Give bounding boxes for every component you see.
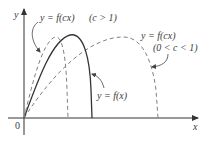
stretched-curve-equation: y = f(cx) <box>141 31 176 41</box>
origin-label: 0 <box>15 121 20 131</box>
original-pointer-arrow <box>92 74 104 88</box>
compressed-curve <box>24 37 68 118</box>
compressed-pointer-arrow <box>32 22 40 52</box>
compressed-curve-equation: y = f(cx) <box>40 13 75 23</box>
stretched-pointer-arrow <box>152 54 168 67</box>
compressed-curve-condition: (c > 1) <box>89 13 117 23</box>
y-axis-label: y <box>14 10 18 20</box>
x-axis-label: x <box>193 122 197 132</box>
original-curve-equation: y = f(x) <box>97 91 127 101</box>
stretched-curve-condition: (0 < c < 1) <box>153 43 198 53</box>
